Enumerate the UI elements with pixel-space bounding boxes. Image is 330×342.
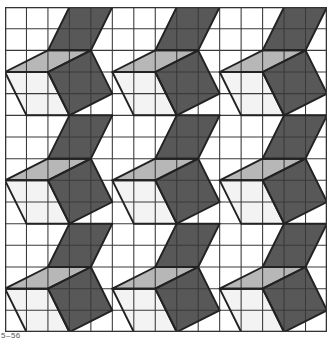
tessellation-figure [5, 7, 327, 332]
figure-caption: 5–56 [1, 331, 21, 341]
cube-pattern-grid [5, 7, 327, 332]
